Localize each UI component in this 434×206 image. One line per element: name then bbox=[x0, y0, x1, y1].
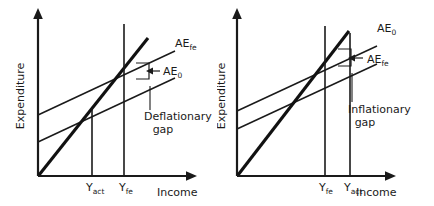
x-axis-arrow-icon bbox=[385, 171, 396, 181]
inflationary-gap-bracket bbox=[338, 49, 363, 66]
x-axis-title: Income bbox=[157, 186, 198, 199]
ae-fe-label: AEfe bbox=[367, 53, 389, 68]
x-tick-label-y-act: Yact bbox=[85, 181, 104, 196]
ae-fe-line bbox=[38, 51, 175, 115]
inflationary-gap-chart: AE0 AEfe Inflationary gap Yfe Yact Incom… bbox=[217, 0, 434, 206]
inflationary-gap-label-line2: gap bbox=[355, 116, 376, 129]
inflationary-gap-label-line1: Inflationary bbox=[348, 103, 411, 116]
deflationary-gap-bracket bbox=[136, 63, 160, 79]
deflationary-gap-label-line2: gap bbox=[153, 123, 174, 136]
economics-gap-figure: AEfe AE0 Deflationary gap Yact Yfe Incom… bbox=[0, 0, 434, 206]
ae-0-label: AE0 bbox=[163, 65, 182, 80]
x-axis-arrow-icon bbox=[186, 171, 197, 181]
deflationary-gap-chart: AEfe AE0 Deflationary gap Yact Yfe Incom… bbox=[0, 0, 217, 206]
axes-group-right bbox=[232, 8, 396, 181]
x-tick-label-y-fe: Yfe bbox=[318, 181, 333, 196]
ae-0-line bbox=[237, 46, 377, 111]
x-tick-label-y-fe: Yfe bbox=[118, 181, 133, 196]
y-axis-title: Expenditure bbox=[14, 62, 27, 129]
y-axis-arrow-icon bbox=[33, 8, 43, 19]
deflationary-gap-label-line1: Deflationary bbox=[144, 110, 212, 123]
ae-0-label: AE0 bbox=[377, 22, 396, 37]
y-axis-arrow-icon bbox=[232, 8, 242, 19]
ae-fe-label: AEfe bbox=[175, 37, 197, 52]
axes-group-left bbox=[33, 8, 197, 181]
y-axis-title: Expenditure bbox=[217, 62, 228, 129]
x-axis-title: Income bbox=[356, 186, 397, 199]
